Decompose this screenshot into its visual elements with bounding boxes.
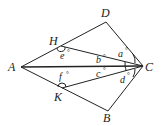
- angle-label-c: c: [96, 68, 101, 79]
- degree-e: °: [67, 48, 70, 56]
- angle-label-a: a: [118, 48, 123, 59]
- segment-DC: [106, 22, 143, 66]
- angle-label-b: b: [96, 54, 101, 65]
- angle-label-f: f: [59, 71, 63, 82]
- segment-BC: [108, 66, 143, 111]
- geometry-diagram: A B C D H K a ° b ° c ° d ° e ° f °: [0, 0, 164, 126]
- degree-b: °: [103, 53, 106, 61]
- angle-arc-a: [133, 54, 135, 63]
- point-label-A: A: [7, 60, 16, 74]
- degree-f: °: [66, 70, 69, 78]
- angle-label-d: d: [120, 74, 126, 85]
- angle-label-e: e: [60, 50, 65, 61]
- degree-c: °: [103, 66, 106, 74]
- degree-a: °: [125, 46, 128, 54]
- point-label-K: K: [53, 90, 63, 104]
- degree-d: °: [127, 71, 130, 79]
- point-label-B: B: [103, 111, 111, 125]
- point-label-C: C: [145, 60, 154, 74]
- angle-arc-d: [133, 69, 135, 77]
- point-label-D: D: [100, 6, 110, 20]
- point-label-H: H: [48, 34, 59, 48]
- segment-AB: [21, 67, 108, 111]
- segment-HC: [61, 46, 143, 66]
